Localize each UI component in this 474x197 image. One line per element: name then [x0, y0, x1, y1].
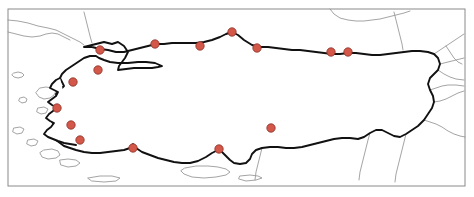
location-marker-dot[interactable] [267, 124, 275, 132]
map-figure [0, 0, 474, 197]
location-marker-dot[interactable] [76, 136, 84, 144]
location-marker-dot[interactable] [69, 78, 77, 86]
location-marker-dot[interactable] [215, 145, 223, 153]
location-marker-dot[interactable] [53, 104, 61, 112]
location-marker-dot[interactable] [96, 46, 104, 54]
location-marker-dot[interactable] [151, 40, 159, 48]
location-marker-dot[interactable] [67, 121, 75, 129]
turkey-location-map [0, 0, 474, 197]
location-marker-dot[interactable] [344, 48, 352, 56]
location-marker-dot[interactable] [196, 42, 204, 50]
location-marker-dot[interactable] [253, 44, 261, 52]
location-marker-dot[interactable] [228, 28, 236, 36]
location-marker-dot[interactable] [327, 48, 335, 56]
location-marker-dot[interactable] [129, 144, 137, 152]
location-marker-dot[interactable] [94, 66, 102, 74]
